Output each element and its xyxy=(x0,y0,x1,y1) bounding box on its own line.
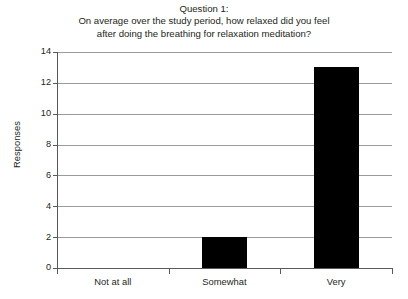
y-axis-tick-label: 2 xyxy=(29,233,51,242)
x-axis-tick xyxy=(280,269,281,274)
x-axis-tick-label: Somewhat xyxy=(165,276,285,287)
x-axis-tick xyxy=(392,269,393,274)
y-axis-tick xyxy=(53,237,58,238)
y-axis-tick xyxy=(53,206,58,207)
chart-title-line-2: On average over the study period, how re… xyxy=(0,15,408,27)
chart-title-line-3: after doing the breathing for relaxation… xyxy=(0,28,408,40)
plot-area xyxy=(57,52,392,268)
y-axis-tick-label: 12 xyxy=(29,78,51,87)
y-axis-tick-label: 8 xyxy=(29,140,51,149)
chart-title: Question 1: On average over the study pe… xyxy=(0,3,408,40)
chart-title-line-1: Question 1: xyxy=(0,3,408,15)
bar xyxy=(202,237,247,268)
y-axis-tick xyxy=(53,175,58,176)
y-axis-tick xyxy=(53,83,58,84)
y-axis-tick xyxy=(53,52,58,53)
x-axis-tick-label: Not at all xyxy=(53,276,173,287)
x-axis-tick xyxy=(57,269,58,274)
y-axis-tick-labels: 02468101214 xyxy=(24,0,51,299)
gridline xyxy=(57,268,392,269)
bar xyxy=(314,67,359,268)
y-axis-tick-label: 4 xyxy=(29,202,51,211)
x-axis-tick xyxy=(169,269,170,274)
y-axis-title: Responses xyxy=(11,105,22,185)
y-axis-tick-label: 14 xyxy=(29,47,51,56)
gridline xyxy=(57,52,392,53)
y-axis-tick xyxy=(53,114,58,115)
x-axis-tick-label: Very xyxy=(276,276,396,287)
y-axis-tick-label: 6 xyxy=(29,171,51,180)
y-axis-tick-label: 10 xyxy=(29,109,51,118)
y-axis-tick xyxy=(53,145,58,146)
y-axis-tick-label: 0 xyxy=(29,263,51,272)
